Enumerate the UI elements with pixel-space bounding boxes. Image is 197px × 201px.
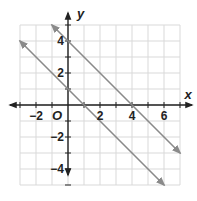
x-axis-label: x xyxy=(183,87,192,102)
y-tick-label: −2 xyxy=(50,130,64,144)
axes xyxy=(10,13,192,185)
y-axis-label: y xyxy=(76,6,85,21)
x-tick-label: 6 xyxy=(161,109,168,123)
y-tick-label: 2 xyxy=(57,66,64,80)
coordinate-plane: −2246−4−224Oxy xyxy=(0,0,197,201)
x-tick-label: 4 xyxy=(129,109,136,123)
origin-label: O xyxy=(52,108,62,123)
x-tick-label: −2 xyxy=(29,109,43,123)
y-tick-label: −4 xyxy=(50,162,64,176)
y-tick-label: 4 xyxy=(57,34,64,48)
labels: −2246−4−224Oxy xyxy=(29,6,192,176)
x-tick-label: 2 xyxy=(97,109,104,123)
